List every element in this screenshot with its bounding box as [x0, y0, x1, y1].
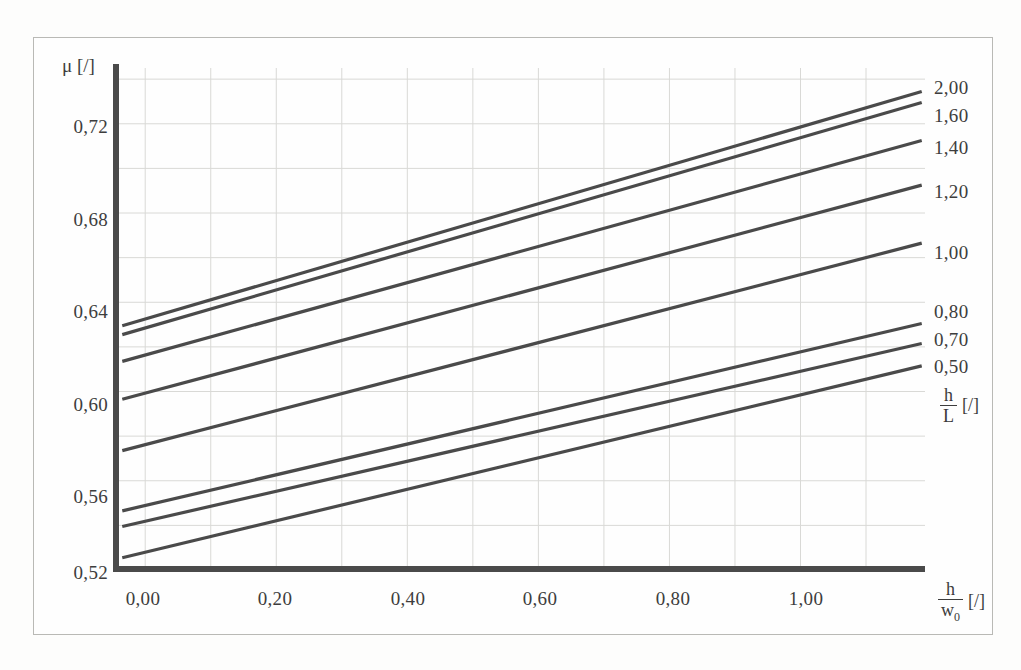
x-tick-label: 0,00 — [103, 589, 183, 608]
x-axis-tick-labels: 0,000,200,400,600,801,00 — [0, 589, 1021, 615]
series-line-1-40 — [122, 141, 921, 362]
y-tick-label: 0,72 — [44, 117, 108, 136]
x-tick-label: 0,20 — [235, 589, 315, 608]
legend-item-label: 0,50 — [934, 357, 1006, 376]
y-tick-label: 0,60 — [44, 395, 108, 414]
series-line-1-00 — [122, 243, 921, 450]
y-axis-unit: [/] — [77, 55, 95, 76]
legend-item-label: 0,80 — [934, 302, 1006, 321]
x-tick-label: 0,40 — [368, 589, 448, 608]
legend-item-label: 1,20 — [934, 182, 1006, 201]
plot-area — [119, 68, 925, 570]
legend: 2,001,601,401,201,000,800,700,50 — [934, 0, 1014, 670]
x-tick-label: 1,00 — [766, 589, 846, 608]
y-axis-tick-labels: 0,720,680,640,600,560,52 — [40, 0, 108, 670]
y-axis-symbol: μ — [62, 55, 72, 76]
legend-item-label: 1,00 — [934, 243, 1006, 262]
series-lines — [119, 68, 925, 570]
legend-item-label: 1,60 — [934, 106, 1006, 125]
legend-item-label: 0,70 — [934, 330, 1006, 349]
y-tick-label: 0,56 — [44, 487, 108, 506]
legend-item-label: 2,00 — [934, 78, 1006, 97]
y-tick-label: 0,68 — [44, 210, 108, 229]
y-axis-title: μ [/] — [62, 56, 95, 76]
y-tick-label: 0,64 — [44, 302, 108, 321]
legend-item-label: 1,40 — [934, 138, 1006, 157]
x-axis-line — [113, 566, 925, 572]
series-line-2-00 — [122, 91, 921, 325]
series-line-0-50 — [122, 366, 921, 558]
series-line-0-70 — [122, 344, 921, 527]
y-axis-line — [113, 64, 119, 572]
x-tick-label: 0,60 — [500, 589, 580, 608]
series-line-0-80 — [122, 323, 921, 510]
y-tick-label: 0,52 — [44, 563, 108, 582]
x-tick-label: 0,80 — [633, 589, 713, 608]
